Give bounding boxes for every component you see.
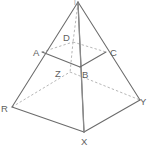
pyramid-diagram: T A D C Z B R Y X [0,0,149,147]
vertex-label-Z: Z [55,68,61,79]
edge-R-X [12,107,84,132]
edge-axis-apex-X [78,3,84,132]
vertex-label-R: R [1,103,8,114]
edge-apex-Y [78,2,140,100]
hidden-edges [12,3,140,107]
edge-B-C [80,52,106,67]
vertex-label-D: D [63,32,70,43]
edge-A-B [42,52,80,67]
vertex-labels: T A D C Z B R Y X [1,0,147,147]
cross-section-quad [42,52,106,67]
vertex-label-A: A [33,47,40,58]
vertex-label-B: B [82,69,88,80]
vertex-label-Y: Y [140,96,147,107]
edge-X-Y [84,100,140,132]
edge-apex-R [12,2,78,107]
pyramid-figure: T A D C Z B R Y X [0,0,149,147]
edge-R-Z [12,72,70,107]
central-axis [78,3,84,132]
edge-D-Z [70,42,73,73]
vertex-label-apex: T [72,0,78,7]
edge-D-C [73,42,106,52]
edge-Z-Y [70,72,140,100]
vertex-label-X: X [81,136,88,147]
vertex-label-C: C [110,47,117,58]
edge-A-D [42,42,73,52]
